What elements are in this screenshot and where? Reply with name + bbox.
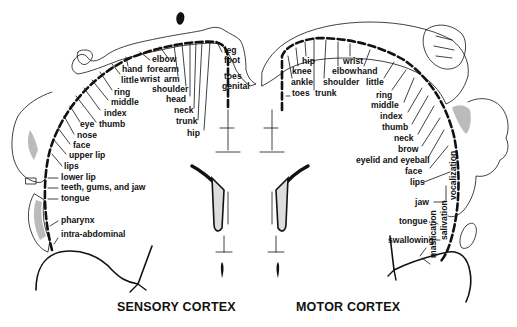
motor-midline-mark	[260, 110, 284, 152]
label-tongue: tongue	[61, 193, 90, 203]
label-face: face	[405, 166, 422, 176]
motor-face-shading	[452, 105, 471, 134]
label-knee: knee	[292, 66, 312, 76]
label-eyelid-and-eyeball: eyelid and eyeball	[356, 155, 430, 165]
motor-vertical-labels: vocalizationsalivationmastication	[428, 151, 458, 258]
label-tongue: tongue	[399, 216, 428, 226]
label-index: index	[380, 111, 403, 121]
label-nose: nose	[77, 130, 97, 140]
motor-sulcus-fork	[388, 270, 396, 280]
motor-cortex-title: MOTOR CORTEX	[296, 300, 401, 314]
label-genital: genital	[222, 81, 250, 91]
label-little: little	[121, 75, 139, 85]
label-salivation: salivation	[439, 200, 449, 240]
motor-labels: hipwristkneeelbowhandankleshoulderlittle…	[291, 56, 434, 245]
sensory-midline-mark	[216, 110, 240, 152]
label-neck: neck	[394, 133, 414, 143]
label-neck: neck	[174, 105, 194, 115]
label-pharynx: pharynx	[61, 215, 95, 225]
label-ring: ring	[114, 87, 130, 97]
label-jaw: jaw	[414, 197, 429, 207]
label-head: head	[166, 94, 186, 104]
label-face: face	[73, 140, 90, 150]
label-trunk: trunk	[176, 116, 198, 126]
label-mastication: mastication	[428, 210, 438, 258]
label-little: little	[366, 77, 384, 87]
label-brow: brow	[398, 144, 419, 154]
label-ankle: ankle	[291, 77, 313, 87]
label-forearm: forearm	[147, 64, 179, 74]
label-lower-lip: lower lip	[61, 172, 96, 182]
motor-tongue-outline	[460, 223, 476, 248]
sensory-cortex-drawing	[12, 12, 256, 292]
motor-ventricle	[276, 178, 288, 231]
label-leg: leg	[224, 45, 236, 55]
label-middle: middle	[111, 97, 139, 107]
homunculus-diagram: legfoottoesgenitalelbowforearmarmwristsh…	[0, 0, 517, 327]
sensory-cortex-title: SENSORY CORTEX	[117, 300, 236, 314]
motor-lower-tick	[277, 262, 280, 278]
label-lips: lips	[64, 161, 79, 171]
label-thumb: thumb	[382, 122, 408, 132]
label-shoulder: shoulder	[152, 84, 189, 94]
motor-lower-midline	[268, 236, 284, 252]
label-toes: toes	[224, 71, 242, 81]
sensory-face-shading	[28, 130, 38, 160]
label-hand: hand	[122, 64, 143, 74]
sensory-hand-outline	[77, 50, 92, 65]
sensory-head-silhouette	[176, 12, 184, 25]
label-lips: lips	[410, 177, 425, 187]
label-ring: ring	[376, 90, 392, 100]
label-vocalization: vocalization	[448, 151, 458, 200]
label-upper-lip: upper lip	[69, 150, 105, 160]
sensory-sulcus-fork	[130, 284, 146, 292]
label-wrist: wrist	[342, 56, 363, 66]
label-thumb: thumb	[99, 119, 125, 129]
label-toes: toes	[292, 88, 310, 98]
label-middle: middle	[371, 100, 399, 110]
label-hip: hip	[187, 128, 200, 138]
label-wrist: wrist	[139, 74, 160, 84]
label-eye: eye	[80, 119, 95, 129]
sensory-ventricle	[212, 178, 224, 231]
label-teeth-gums-and-jaw: teeth, gums, and jaw	[61, 182, 146, 192]
label-trunk: trunk	[315, 88, 337, 98]
label-hip: hip	[302, 56, 315, 66]
sensory-brain-base	[36, 246, 152, 290]
label-elbow: elbow	[332, 66, 357, 76]
label-elbow: elbow	[152, 54, 177, 64]
label-intra-abdominal: intra-abdominal	[61, 229, 125, 239]
label-arm: arm	[164, 74, 180, 84]
label-hand: hand	[357, 66, 378, 76]
label-swallowing: swallowing	[388, 235, 434, 245]
label-index: index	[104, 108, 127, 118]
label-foot: foot	[224, 55, 240, 65]
label-shoulder: shoulder	[323, 77, 360, 87]
sensory-lower-tick	[221, 262, 224, 278]
sensory-lower-midline	[216, 236, 232, 252]
